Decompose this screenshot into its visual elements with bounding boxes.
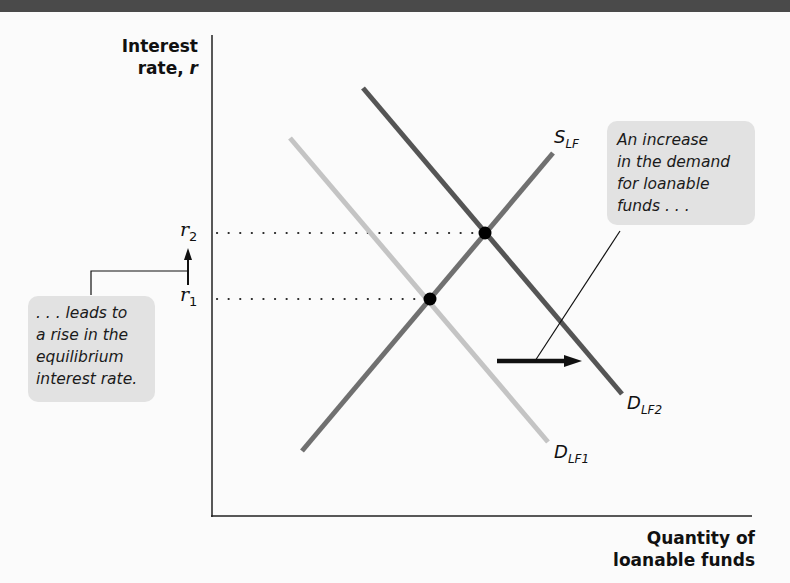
- rate-callout-leader: [91, 271, 188, 295]
- x-axis-title: Quantity of loanable funds: [560, 527, 755, 571]
- supply-curve-label: SLF: [554, 126, 579, 151]
- rate-rise-callout: . . . leads to a rise in the equilibrium…: [28, 296, 155, 402]
- arrow-up-icon: [184, 248, 192, 260]
- demand-curve-1-label: DLF1: [554, 441, 589, 466]
- equilibrium-point-initial: [424, 293, 437, 306]
- demand-increase-callout: An increase in the demand for loanable f…: [607, 121, 755, 225]
- demand-curve-1: [290, 138, 548, 442]
- arrow-right-icon: [564, 355, 582, 367]
- equilibrium-point-new: [479, 227, 492, 240]
- loanable-funds-chart: [0, 0, 790, 583]
- demand-curve-2: [363, 88, 622, 394]
- tick-r1: r1: [180, 283, 197, 309]
- demand-curve-2-label: DLF2: [627, 392, 662, 417]
- y-axis-title: Interest rate, r: [100, 35, 198, 79]
- tick-r2: r2: [180, 218, 197, 244]
